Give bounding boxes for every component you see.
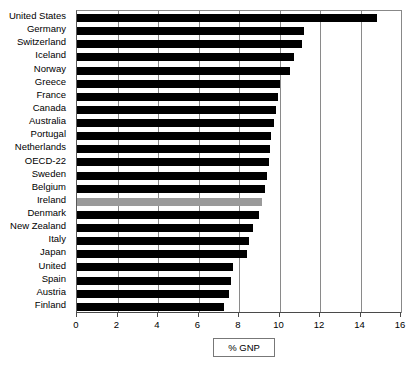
category-axis-labels: United StatesGermanySwitzerlandIcelandNo…: [0, 10, 70, 312]
x-axis-tick: [400, 312, 401, 317]
category-label: Germany: [0, 24, 66, 34]
bar: [77, 93, 278, 101]
category-label: United: [0, 261, 66, 271]
plot-area: [76, 10, 402, 313]
bar: [77, 67, 290, 75]
category-label: United States: [0, 11, 66, 21]
bar: [77, 27, 304, 35]
bar: [77, 40, 302, 48]
bar: [77, 119, 274, 127]
category-label: Australia: [0, 116, 66, 126]
x-axis-tick: [157, 312, 158, 317]
category-label: Japan: [0, 247, 66, 257]
x-axis-tick-label: 10: [264, 319, 294, 330]
category-label: France: [0, 90, 66, 100]
bar: [77, 277, 231, 285]
x-axis-tick: [76, 312, 77, 317]
category-label: Finland: [0, 300, 66, 310]
bar: [77, 158, 269, 166]
x-axis-tick: [360, 312, 361, 317]
x-axis-tick-label: 6: [183, 319, 213, 330]
clipped-chart-title: [240, 0, 360, 2]
category-label: Italy: [0, 234, 66, 244]
category-label: Netherlands: [0, 142, 66, 152]
bar: [77, 172, 267, 180]
x-axis-tick-label: 8: [223, 319, 253, 330]
x-axis-title-label: % GNP: [228, 342, 260, 353]
category-label: Belgium: [0, 182, 66, 192]
x-axis-tick: [238, 312, 239, 317]
category-label: Austria: [0, 287, 66, 297]
x-axis-tick-label: 16: [385, 319, 415, 330]
category-label: Canada: [0, 103, 66, 113]
x-axis-tick: [319, 312, 320, 317]
bar: [77, 198, 262, 206]
bar: [77, 303, 224, 311]
bar: [77, 14, 377, 22]
bar-chart: United StatesGermanySwitzerlandIcelandNo…: [0, 0, 415, 366]
category-label: Spain: [0, 274, 66, 284]
bar: [77, 250, 247, 258]
x-axis-tick-label: 2: [102, 319, 132, 330]
category-label: Ireland: [0, 195, 66, 205]
category-label: Portugal: [0, 129, 66, 139]
category-label: Switzerland: [0, 37, 66, 47]
bar: [77, 132, 271, 140]
category-label: New Zealand: [0, 221, 66, 231]
bar: [77, 185, 265, 193]
x-axis-tick: [279, 312, 280, 317]
x-axis-title-box: % GNP: [213, 338, 275, 357]
x-axis-tick-label: 4: [142, 319, 172, 330]
bar: [77, 53, 294, 61]
bar: [77, 211, 259, 219]
bar: [77, 224, 253, 232]
bar: [77, 263, 233, 271]
category-label: Norway: [0, 64, 66, 74]
category-label: Denmark: [0, 208, 66, 218]
bar: [77, 106, 276, 114]
bar: [77, 145, 270, 153]
category-label: OECD-22: [0, 156, 66, 166]
x-axis-tick: [198, 312, 199, 317]
x-axis-tick: [117, 312, 118, 317]
category-label: Greece: [0, 77, 66, 87]
category-label: Iceland: [0, 50, 66, 60]
x-axis-tick-label: 12: [304, 319, 334, 330]
category-label: Sweden: [0, 169, 66, 179]
x-axis-tick-label: 0: [61, 319, 91, 330]
bar: [77, 80, 280, 88]
x-axis-tick-label: 14: [345, 319, 375, 330]
bar: [77, 237, 249, 245]
bar: [77, 290, 229, 298]
